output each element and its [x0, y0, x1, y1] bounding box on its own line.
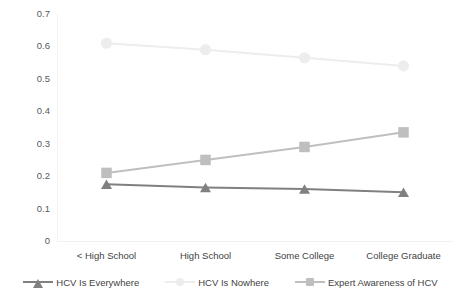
line-chart: 0.70.60.50.40.30.20.10 HCV Is Everywhere…: [0, 0, 461, 302]
x-tick-label: < High School: [77, 250, 136, 261]
legend-swatch-triangle-icon: [23, 276, 53, 288]
legend-swatch-square-icon: [295, 276, 325, 288]
x-tick-label: College Graduate: [366, 250, 440, 261]
legend-item-3[interactable]: Expert Awareness of HCV: [295, 276, 438, 288]
series-line: [107, 43, 404, 66]
x-tick-label: Some College: [275, 250, 335, 261]
series-line: [107, 132, 404, 173]
series-hcv-is-nowhere: [101, 38, 409, 72]
data-point-marker: [398, 127, 409, 138]
series-expert-awareness-of-hcv: [101, 127, 409, 178]
data-point-marker: [101, 168, 112, 179]
legend-label: HCV Is Nowhere: [198, 277, 269, 288]
data-point-marker: [101, 38, 112, 49]
legend-marker-triangle-icon: [33, 279, 43, 288]
series-line: [107, 184, 404, 192]
legend-marker-circle-icon: [176, 278, 184, 286]
series-hcv-is-everywhere: [101, 180, 409, 198]
data-point-marker: [299, 52, 310, 63]
legend-item-2[interactable]: HCV Is Nowhere: [165, 276, 269, 288]
legend-label: Expert Awareness of HCV: [328, 277, 438, 288]
data-point-marker: [200, 44, 211, 55]
legend-item-1[interactable]: HCV Is Everywhere: [23, 276, 139, 288]
legend-swatch-circle-icon: [165, 276, 195, 288]
data-point-marker: [398, 60, 409, 71]
x-tick-label: High School: [180, 250, 231, 261]
chart-legend: HCV Is EverywhereHCV Is NowhereExpert Aw…: [0, 276, 461, 288]
legend-label: HCV Is Everywhere: [56, 277, 139, 288]
data-point-marker: [299, 142, 310, 153]
data-point-marker: [200, 155, 211, 166]
legend-marker-square-icon: [306, 278, 314, 286]
